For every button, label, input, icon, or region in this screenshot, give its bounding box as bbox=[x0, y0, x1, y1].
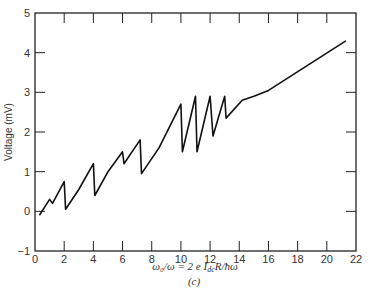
x-tick-label: 2 bbox=[61, 253, 67, 265]
y-tick-label: 3 bbox=[24, 86, 30, 98]
y-tick-label: 0 bbox=[24, 205, 30, 217]
plot-frame bbox=[35, 13, 356, 251]
y-tick-label: 1 bbox=[24, 166, 30, 178]
voltage-curve bbox=[39, 41, 345, 216]
x-tick-label: 22 bbox=[350, 253, 362, 265]
x-tick-label: 18 bbox=[292, 253, 304, 265]
x-tick-label: 20 bbox=[321, 253, 333, 265]
y-axis-label: Voltage (mV) bbox=[3, 103, 14, 161]
chart: 0246810121416182022 −1012345 Voltage (mV… bbox=[0, 0, 368, 299]
figure-caption: (c) bbox=[188, 275, 201, 288]
y-tick-label: 4 bbox=[24, 47, 30, 59]
x-tick-label: 6 bbox=[119, 253, 125, 265]
y-tick-label: 2 bbox=[24, 126, 30, 138]
x-tick-label: 0 bbox=[32, 253, 38, 265]
x-tick-label: 4 bbox=[90, 253, 96, 265]
y-tick-label: 5 bbox=[24, 7, 30, 19]
y-tick-label: −1 bbox=[17, 245, 30, 257]
x-tick-label: 16 bbox=[262, 253, 274, 265]
x-axis-label: ω₀/ω = 2 e IdcR/ħω bbox=[152, 260, 238, 274]
